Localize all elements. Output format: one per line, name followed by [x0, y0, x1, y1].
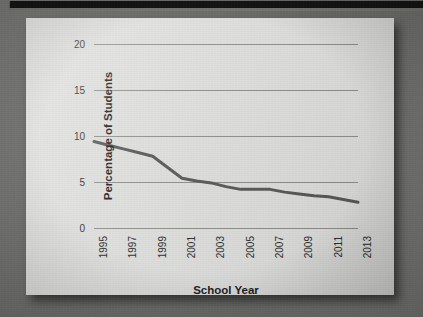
top-dark-bar [10, 1, 423, 8]
x-tick-label-2009: 2009 [303, 236, 314, 258]
x-tick-label-1995: 1995 [98, 236, 109, 258]
series-polyline [94, 142, 358, 203]
line-series [94, 44, 358, 228]
gridline-0 [94, 228, 358, 229]
top-bar-underlay [10, 8, 423, 11]
x-tick-label-1999: 1999 [157, 236, 168, 258]
plot-area: 05101520 1995199719992001200320052007200… [94, 44, 358, 228]
chart-panel: 05101520 1995199719992001200320052007200… [26, 18, 394, 295]
x-tick-label-2001: 2001 [186, 236, 197, 258]
x-axis-title: School Year [94, 284, 358, 296]
x-tick-label-2005: 2005 [245, 236, 256, 258]
y-tick-label-0: 0 [79, 223, 85, 234]
x-tick-label-1997: 1997 [127, 236, 138, 258]
x-tick-label-2007: 2007 [274, 236, 285, 258]
screenshot-root: 05101520 1995199719992001200320052007200… [0, 0, 423, 317]
y-tick-label-15: 15 [74, 85, 85, 96]
y-tick-label-20: 20 [74, 39, 85, 50]
x-tick-label-2003: 2003 [215, 236, 226, 258]
y-axis-title: Percentage of Students [102, 72, 114, 200]
y-tick-label-5: 5 [79, 177, 85, 188]
y-tick-label-10: 10 [74, 131, 85, 142]
x-tick-label-2013: 2013 [362, 236, 373, 258]
x-tick-label-2011: 2011 [333, 236, 344, 258]
